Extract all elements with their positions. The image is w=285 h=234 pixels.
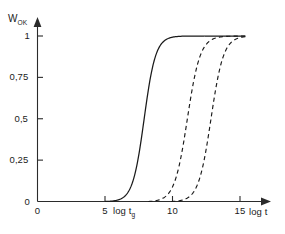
curve-2-dashed <box>148 36 245 201</box>
log-tg-annotation: log tg <box>113 206 135 218</box>
x-tick-label: 15 <box>235 206 246 216</box>
y-tick-label: 0,75 <box>10 72 29 82</box>
x-axis-arrowhead <box>261 198 271 206</box>
chart-figure: 05101500,250,50,751 WOK log t log tg <box>0 0 285 234</box>
log-tg-sub: g <box>131 211 135 218</box>
y-tick-label: 1 <box>25 31 30 41</box>
y-tick-label: 0,25 <box>10 155 29 165</box>
curve-3-dashed <box>171 37 245 202</box>
y-axis-arrowhead <box>34 17 42 27</box>
x-axis-title: log t <box>249 207 267 217</box>
y-axis-title: WOK <box>8 14 27 27</box>
y-axis-ticks <box>38 36 44 160</box>
x-axis-ticks <box>105 196 240 202</box>
log-tg-main: log t <box>113 205 131 216</box>
x-tick-label: 5 <box>102 206 107 216</box>
curve-1-solid <box>105 36 245 202</box>
chart-curves <box>105 36 245 202</box>
y-axis-title-main: W <box>8 13 18 24</box>
y-axis-title-sub: OK <box>18 19 28 26</box>
y-tick-label: 0,5 <box>15 114 29 124</box>
x-tick-label: 10 <box>167 206 178 216</box>
x-tick-label: 0 <box>35 206 40 216</box>
y-tick-label: 0 <box>25 197 30 207</box>
chart-plot-area <box>0 0 285 234</box>
